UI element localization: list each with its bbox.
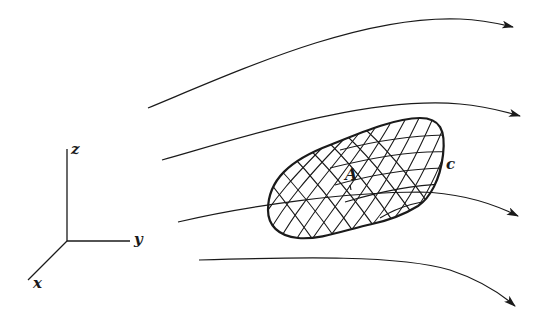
- boundary-c-label: c: [446, 157, 455, 172]
- point-a-label: A: [345, 167, 357, 183]
- flow-line-4: [199, 258, 515, 306]
- flow-lines: [148, 19, 520, 160]
- diagram-svg: [0, 0, 548, 323]
- flow-line-1: [148, 19, 513, 108]
- z-axis-label: z: [71, 142, 80, 157]
- vector-flow-diagram: z y x A c: [0, 0, 548, 323]
- y-axis-label: y: [134, 232, 143, 247]
- flow-line-2: [162, 103, 520, 160]
- flow-line-3: [178, 192, 518, 222]
- point-a-marker: [350, 185, 351, 190]
- coordinate-axes: [28, 149, 130, 280]
- x-axis-label: x: [33, 276, 42, 291]
